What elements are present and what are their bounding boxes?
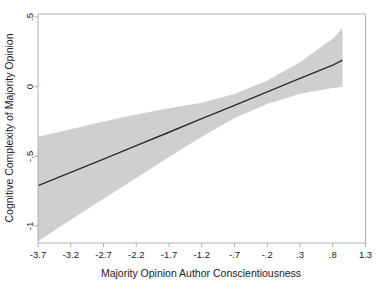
x-axis-label: Majority Opinion Author Conscientiousnes… [101, 267, 301, 279]
x-tick-label: -3.7 [30, 249, 46, 260]
x-tick-label: .3 [296, 249, 304, 260]
x-tick-label: -2.7 [95, 249, 111, 260]
x-tick-label: -1.2 [194, 249, 210, 260]
x-tick-label: -2.2 [128, 249, 144, 260]
y-tick-label: -.5 [24, 151, 35, 162]
x-tick-label: 1.3 [359, 249, 372, 260]
chart-figure: .50-.5-1 -3.7-3.2-2.7-2.2-1.7-1.2-.7-.2.… [0, 0, 386, 286]
y-tick-label: -1 [24, 222, 35, 230]
y-axis-label: Cognitive Complexity of Majority Opinion [3, 33, 15, 222]
y-tick-label: .5 [24, 13, 35, 21]
x-tick-label: .8 [329, 249, 337, 260]
scatter-fit-plot: .50-.5-1 -3.7-3.2-2.7-2.2-1.7-1.2-.7-.2.… [0, 0, 386, 286]
x-tick-label: -1.7 [161, 249, 177, 260]
x-tick-label: -.7 [229, 249, 240, 260]
x-tick-label: -3.2 [63, 249, 79, 260]
x-tick-label: -.2 [262, 249, 273, 260]
y-tick-label: 0 [24, 84, 35, 89]
